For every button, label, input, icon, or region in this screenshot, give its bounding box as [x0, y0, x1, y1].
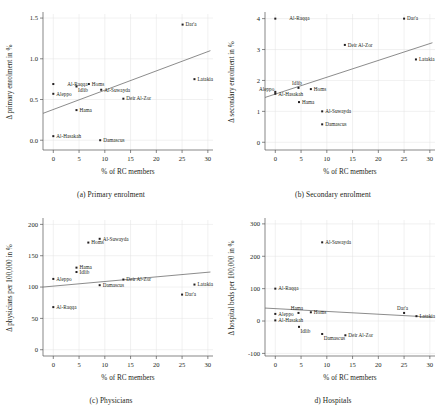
data-point-label: Idlib — [292, 80, 302, 86]
data-point — [193, 78, 195, 80]
panel-d-hospitals: -1000100200300051015202530% of RC member… — [222, 206, 444, 413]
data-point — [75, 109, 77, 111]
data-point — [122, 279, 124, 281]
x-tick-label: 20 — [375, 155, 382, 162]
scatter-plot-d: -1000100200300051015202530% of RC member… — [222, 206, 444, 396]
data-point-label: Al-Raqqa — [67, 81, 88, 87]
data-point — [122, 98, 124, 100]
x-tick-label: 30 — [427, 155, 434, 162]
data-point — [321, 110, 323, 112]
data-point-label: Homs — [92, 81, 104, 87]
x-tick-label: 30 — [427, 361, 434, 368]
y-tick-label: 1.0 — [30, 55, 39, 62]
data-point-label: Al-Raqqa — [289, 15, 310, 21]
data-point-label: Latakia — [197, 281, 213, 287]
data-point-label: Al-Hasakah — [278, 91, 303, 97]
data-point — [52, 135, 54, 137]
scatter-plot-a: 0.00.51.01.5051015202530% of RC membersΔ… — [0, 0, 222, 190]
x-tick-label: 10 — [102, 155, 109, 162]
data-point — [310, 311, 312, 313]
data-point-label: Al-Suwayda — [325, 108, 352, 114]
panel-c-physicians: 050100150200051015202530% of RC membersΔ… — [0, 206, 222, 413]
data-point-label: Al-Suwayda — [103, 236, 130, 242]
data-point-label: Hama — [79, 264, 92, 270]
panel-a-caption: (a) Primary enrolment — [0, 190, 222, 199]
data-point — [88, 83, 90, 85]
data-point — [52, 278, 54, 280]
data-point-label: Al-Raqqa — [278, 285, 299, 291]
data-point — [52, 306, 54, 308]
y-tick-label: 100 — [28, 283, 39, 290]
data-point-label: Aleppo — [259, 86, 275, 92]
panel-a-primary-enrolment: 0.00.51.01.5051015202530% of RC membersΔ… — [0, 0, 222, 207]
data-point — [182, 24, 184, 26]
data-point-label: Aleppo — [278, 311, 294, 317]
x-tick-label: 5 — [77, 361, 81, 368]
y-tick-label: 100 — [250, 285, 261, 292]
data-point — [415, 58, 417, 60]
y-tick-label: 0 — [35, 346, 39, 353]
data-point — [274, 91, 276, 93]
panel-b-caption: (b) Secondary enrolment — [222, 190, 444, 199]
data-point — [344, 334, 346, 336]
data-point — [321, 123, 323, 125]
data-point-label: Damascus — [103, 282, 124, 288]
x-tick-label: 5 — [77, 155, 81, 162]
data-point — [274, 288, 276, 290]
data-point — [52, 93, 54, 95]
data-point — [297, 87, 299, 89]
y-tick-label: 300 — [250, 220, 261, 227]
data-point-label: Aleppo — [56, 91, 72, 97]
data-point — [274, 319, 276, 321]
panel-d-caption: d) Hospitals — [222, 396, 444, 405]
x-tick-label: 25 — [179, 361, 186, 368]
data-point — [403, 18, 405, 20]
x-tick-label: 15 — [349, 361, 356, 368]
y-tick-label: -100 — [248, 350, 261, 357]
x-axis-title: % of RC members — [101, 168, 155, 176]
data-point — [274, 93, 276, 95]
data-point-label: Latakia — [197, 76, 213, 82]
data-point-label: Dar'a — [397, 305, 409, 311]
data-point-label: Homs — [314, 86, 326, 92]
data-point-label: Dar'a — [407, 15, 419, 21]
data-point-label: Al-Raqqa — [56, 304, 77, 310]
data-point-label: Aleppo — [56, 276, 72, 282]
x-tick-label: 0 — [274, 361, 278, 368]
x-tick-label: 15 — [127, 361, 134, 368]
x-tick-label: 0 — [52, 361, 56, 368]
data-point-label: Damascus — [324, 335, 345, 341]
x-axis-title: % of RC members — [323, 168, 377, 176]
data-point-label: Deir Al-Zor — [126, 276, 151, 282]
data-point-label: Al-Suwayda — [325, 239, 352, 245]
data-point — [415, 315, 417, 317]
data-point-label: Deir Al-Zor — [348, 332, 373, 338]
data-point-label: Hama — [302, 99, 315, 105]
x-tick-label: 5 — [299, 361, 303, 368]
y-tick-label: 1 — [257, 108, 260, 115]
y-tick-label: 0.0 — [30, 137, 39, 144]
data-point — [75, 267, 77, 269]
data-point-label: Damascus — [103, 137, 124, 143]
x-tick-label: 0 — [274, 155, 278, 162]
x-tick-label: 0 — [52, 155, 56, 162]
x-tick-label: 25 — [401, 361, 408, 368]
y-tick-label: 1.5 — [30, 14, 39, 21]
scatter-plot-c: 050100150200051015202530% of RC membersΔ… — [0, 206, 222, 396]
data-point — [99, 238, 101, 240]
scatter-plot-b: 01234051015202530% of RC membersΔ second… — [222, 0, 444, 190]
data-point-label: Deir Al-Zor — [126, 95, 151, 101]
x-tick-label: 20 — [375, 361, 382, 368]
figure-four-panel-scatter: 0.00.51.01.5051015202530% of RC membersΔ… — [0, 0, 445, 414]
y-tick-label: 2 — [257, 77, 260, 84]
x-tick-label: 25 — [179, 155, 186, 162]
data-point-label: Dar'a — [185, 291, 197, 297]
x-tick-label: 10 — [324, 155, 331, 162]
data-point-label: Hama — [291, 305, 304, 311]
x-tick-label: 15 — [349, 155, 356, 162]
data-point — [310, 88, 312, 90]
data-point — [298, 101, 300, 103]
y-axis-title: Δ physicians per 100,000 in % — [6, 244, 14, 332]
data-point-label: Al-Hasakah — [56, 133, 81, 139]
data-point-label: Latakia — [419, 56, 435, 62]
